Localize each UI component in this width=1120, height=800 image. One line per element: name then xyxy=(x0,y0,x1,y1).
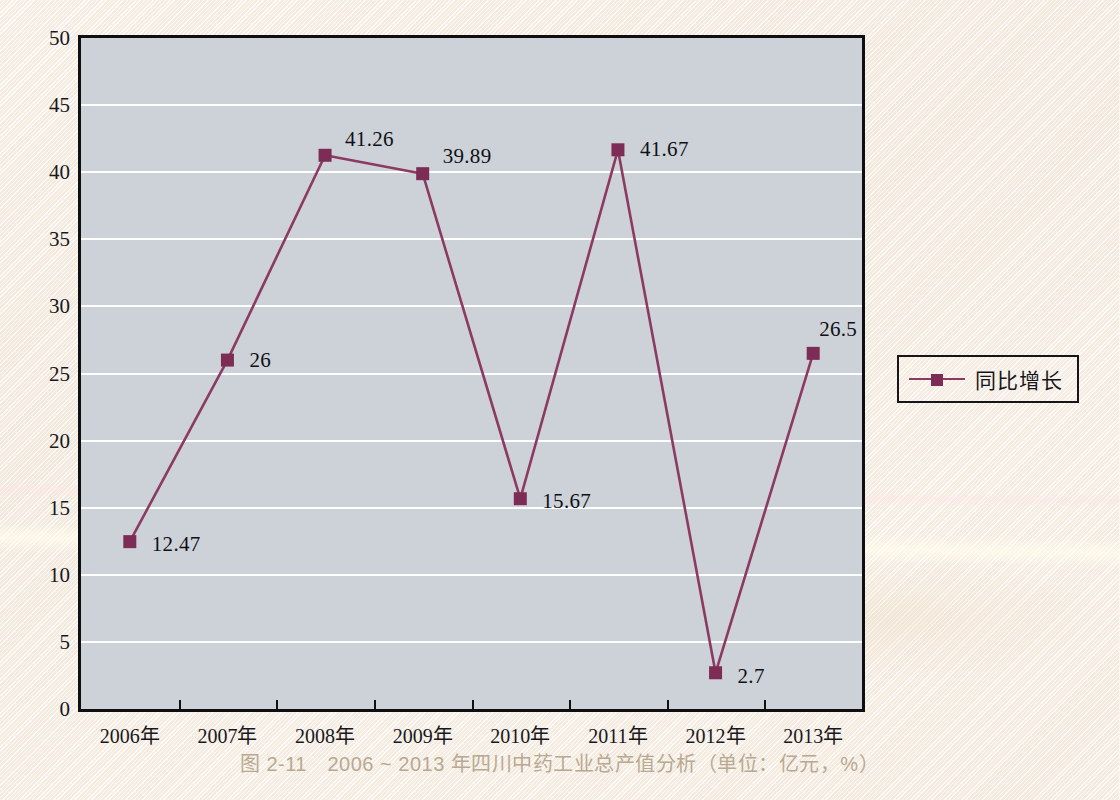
x-axis-tick-mark xyxy=(276,700,278,709)
data-point-marker[interactable] xyxy=(709,666,722,679)
data-point-marker[interactable] xyxy=(416,167,429,180)
legend-square-marker-icon xyxy=(931,374,943,386)
x-axis-tick-mark xyxy=(472,700,474,709)
chart-legend[interactable]: 同比增长 xyxy=(897,355,1079,403)
plot-area: 12.472641.2639.8915.6741.672.726.5 xyxy=(78,35,865,712)
x-axis-tick-label: 2008年 xyxy=(270,720,380,749)
data-point-value-label: 26.5 xyxy=(819,317,857,342)
data-point-marker[interactable] xyxy=(319,149,332,162)
x-axis-tick-label: 2009年 xyxy=(368,720,478,749)
data-point-marker[interactable] xyxy=(611,143,624,156)
y-axis-tick-label: 50 xyxy=(8,26,70,51)
x-axis-tick-mark xyxy=(764,700,766,709)
data-point-value-label: 26 xyxy=(249,348,271,373)
figure-caption: 图 2-11 2006 ~ 2013 年四川中药工业总产值分析（单位：亿元，%） xyxy=(0,748,1119,777)
y-axis-tick-label: 40 xyxy=(8,160,70,185)
data-point-marker[interactable] xyxy=(514,492,527,505)
x-axis-tick-label: 2006年 xyxy=(75,720,185,749)
data-point-marker[interactable] xyxy=(123,535,136,548)
y-axis-tick-label: 0 xyxy=(8,697,70,722)
plot-inner: 12.472641.2639.8915.6741.672.726.5 xyxy=(81,38,862,709)
y-axis-tick-label: 30 xyxy=(8,294,70,319)
x-axis-tick-mark xyxy=(667,700,669,709)
legend-label: 同比增长 xyxy=(975,364,1063,394)
x-axis-tick-label: 2010年 xyxy=(465,720,575,749)
y-axis-tick-label: 20 xyxy=(8,428,70,453)
y-axis-tick-label: 25 xyxy=(8,361,70,386)
series-polyline xyxy=(130,150,813,673)
data-point-value-label: 15.67 xyxy=(542,488,591,513)
data-point-marker[interactable] xyxy=(807,347,820,360)
x-axis-tick-label: 2011年 xyxy=(563,720,673,749)
data-point-value-label: 2.7 xyxy=(738,663,765,688)
series-line-同比增长 xyxy=(81,38,862,709)
data-point-value-label: 41.67 xyxy=(640,136,689,161)
data-point-value-label: 39.89 xyxy=(443,143,492,168)
y-axis-tick-label: 35 xyxy=(8,227,70,252)
y-axis-tick-label: 5 xyxy=(8,629,70,654)
legend-marker-icon xyxy=(909,371,965,387)
x-axis-tick-mark xyxy=(179,700,181,709)
x-axis-tick-label: 2012年 xyxy=(661,720,771,749)
y-axis-tick-label: 45 xyxy=(8,93,70,118)
data-point-value-label: 41.26 xyxy=(345,127,394,152)
x-axis-tick-label: 2013年 xyxy=(758,720,868,749)
y-axis-tick-label: 10 xyxy=(8,562,70,587)
data-point-marker[interactable] xyxy=(221,354,234,367)
y-axis-tick-label: 15 xyxy=(8,495,70,520)
x-axis-tick-mark xyxy=(374,700,376,709)
x-axis-tick-label: 2007年 xyxy=(172,720,282,749)
data-point-value-label: 12.47 xyxy=(152,531,201,556)
x-axis-tick-mark xyxy=(569,700,571,709)
